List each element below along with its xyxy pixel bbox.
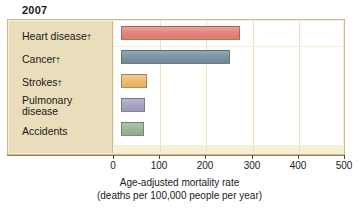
x-tick-400 (298, 155, 299, 159)
bar-lane-4 (114, 95, 343, 119)
x-axis-title-line1: Age-adjusted mortality rate (0, 177, 359, 190)
bar-strokes (121, 74, 147, 88)
x-axis-line (7, 155, 345, 156)
x-tick-label-400: 400 (290, 160, 307, 171)
category-label-column: Heart disease† Cancer† Strokes† Pulmonar… (9, 21, 113, 153)
bar-accidents (121, 122, 144, 136)
x-axis-title-line2: (deaths per 100,000 people per year) (0, 190, 359, 203)
x-tick-label-200: 200 (197, 160, 214, 171)
category-label-strokes-text: Strokes (22, 77, 58, 88)
bar-chart-figure: 2007 Heart disease† Cancer† Strokes† Pul… (0, 0, 359, 212)
x-tick-200 (205, 155, 206, 159)
x-tick-label-100: 100 (151, 160, 168, 171)
bar-pulmonary-disease (121, 98, 145, 112)
x-tick-0 (113, 155, 114, 159)
x-tick-label-500: 500 (336, 160, 353, 171)
category-label-cancer-text: Cancer (22, 54, 56, 65)
gridline-400 (299, 21, 300, 153)
gridline-200 (206, 21, 207, 153)
category-label-pulmonary-disease: Pulmonary disease (22, 94, 72, 117)
page-title: 2007 (22, 4, 47, 16)
category-label-accidents: Accidents (22, 120, 68, 143)
gridline-300 (253, 21, 254, 153)
bar-heart-disease (121, 26, 240, 40)
category-label-heart-disease: Heart disease† (22, 25, 91, 48)
x-axis-title: Age-adjusted mortality rate (deaths per … (0, 177, 359, 202)
x-tick-label-0: 0 (110, 160, 116, 171)
chart-panel: Heart disease† Cancer† Strokes† Pulmonar… (7, 19, 345, 155)
bar-lane-5 (114, 119, 343, 145)
gridline-100 (160, 21, 161, 153)
x-tick-100 (159, 155, 160, 159)
x-tick-300 (252, 155, 253, 159)
bar-lane-3 (114, 71, 343, 95)
x-tick-500 (344, 155, 345, 159)
category-label-cancer: Cancer† (22, 48, 60, 71)
chart-panel-inner: Heart disease† Cancer† Strokes† Pulmonar… (9, 21, 343, 153)
category-label-heart-disease-text: Heart disease (22, 31, 87, 42)
plot-area (114, 21, 343, 153)
x-tick-label-300: 300 (244, 160, 261, 171)
bar-cancer (121, 50, 230, 64)
category-label-strokes: Strokes† (22, 71, 62, 94)
